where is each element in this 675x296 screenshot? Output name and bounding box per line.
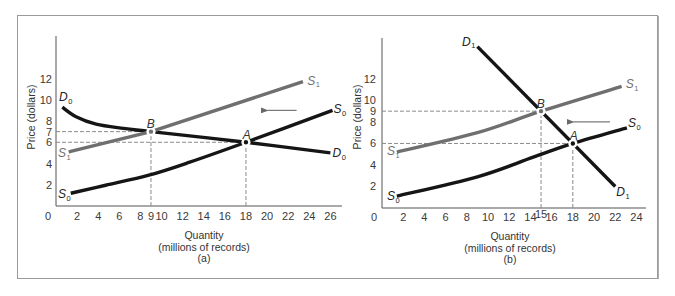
x-tick-label: 4 [421,211,427,223]
x-tick-label: 18 [240,210,252,222]
x-tick-label: 8 [464,211,470,223]
y-tick-label: 2 [370,180,376,192]
x-tick-label: 20 [261,210,273,222]
y-axis-title: Price (dollars) [25,85,37,150]
x-tick-label: 2 [74,210,80,222]
origin-label: 0 [371,211,377,223]
x-tick-label: 10 [155,210,167,222]
y-tick-label: 4 [46,158,52,170]
y-tick-label: 2 [46,179,52,191]
x-tick-label: 12 [503,211,515,223]
y-tick-label: 8 [370,116,376,128]
x-tick-label: 6 [116,210,122,222]
x-tick-label: 22 [609,211,621,223]
x-tick-label: 24 [630,211,642,223]
y-tick-label: 12 [40,73,52,85]
y-tick-label: 7 [46,126,52,138]
x-tick-label: 16 [219,210,231,222]
y-tick-label: 4 [370,159,376,171]
y-tick-label: 6 [370,137,376,149]
x-tick-label: 24 [303,210,315,222]
x-tick-label: 10 [482,211,494,223]
x-tick-label: 18 [567,211,579,223]
x-tick-label: 8 [137,210,143,222]
point-label-a: A [569,129,578,143]
supply-demand-figure: Price (dollars) Quantity (millions of re… [0,0,675,296]
x-tick-label: 4 [95,210,101,222]
y-tick-label: 10 [40,94,52,106]
y-axis-title: Price (dollars) [351,85,363,150]
point-label-a: A [242,128,251,142]
x-tick-label: 9 [148,210,154,222]
origin-label: 0 [45,210,51,222]
y-tick-label: 6 [46,136,52,148]
x-axis-title: Quantity [490,230,530,242]
x-tick-label: 2 [400,211,406,223]
point-label-b: B [147,117,155,131]
x-tick-label: 16 [546,211,558,223]
panel-caption: (b) [504,253,517,265]
x-tick-label: 22 [282,210,294,222]
x-tick-label: 26 [324,210,336,222]
x-axis-title: Quantity [184,229,224,241]
y-tick-label: 12 [364,73,376,85]
y-tick-label: 8 [46,115,52,127]
panel-caption: (a) [198,252,211,264]
point-label-b: B [537,97,545,111]
x-tick-label: 6 [443,211,449,223]
x-tick-label: 12 [177,210,189,222]
x-tick-label: 14 [198,210,210,222]
y-tick-label: 9 [370,105,376,117]
y-tick-label: 10 [364,94,376,106]
x-tick-label: 20 [588,211,600,223]
